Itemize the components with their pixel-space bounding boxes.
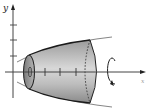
y-axis	[10, 4, 17, 98]
x-axis-label: x	[141, 77, 145, 84]
x-axis-arrow-icon	[140, 70, 146, 74]
y-axis-arrow-icon	[11, 4, 15, 10]
y-axis-label: y	[2, 3, 9, 13]
solid-of-revolution-diagram: y x	[0, 0, 146, 111]
